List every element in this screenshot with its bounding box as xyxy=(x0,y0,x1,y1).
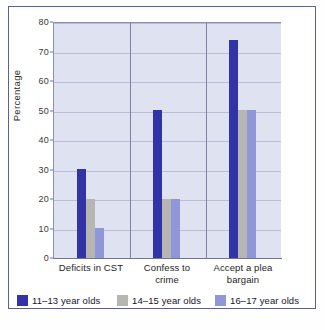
legend-color-swatch xyxy=(117,295,128,306)
chart-legend: 11–13 year olds14–15 year olds16–17 year… xyxy=(9,292,315,308)
y-axis-tick-labels: 01020304050607080 xyxy=(19,0,49,330)
bar xyxy=(229,40,238,258)
legend-label: 16–17 year olds xyxy=(230,295,299,306)
y-axis-tick-label: 70 xyxy=(21,47,49,57)
bar xyxy=(162,199,171,258)
group-separator xyxy=(206,23,207,258)
y-axis-tick-label: 50 xyxy=(21,106,49,116)
category-label-line: Accept a plea xyxy=(197,262,289,274)
y-axis-tick-label: 80 xyxy=(21,17,49,27)
bar xyxy=(171,199,180,258)
y-axis-tick-label: 60 xyxy=(21,76,49,86)
plot-area xyxy=(53,22,281,258)
bar xyxy=(95,228,104,258)
legend-color-swatch xyxy=(17,295,28,306)
legend-item[interactable]: 11–13 year olds xyxy=(17,295,100,306)
gridline xyxy=(54,82,281,83)
x-axis-category-label: Accept a pleabargain xyxy=(197,262,289,285)
legend-label: 11–13 year olds xyxy=(32,295,100,306)
chart-figure: Percentage 01020304050607080 Deficits in… xyxy=(0,0,325,330)
y-axis-tick-label: 30 xyxy=(21,165,49,175)
bar xyxy=(247,110,256,258)
legend-item[interactable]: 16–17 year olds xyxy=(215,295,299,306)
y-axis-tick-label: 10 xyxy=(21,224,49,234)
gridline xyxy=(54,23,281,24)
y-axis-tick-label: 40 xyxy=(21,135,49,145)
bar xyxy=(153,110,162,258)
bar xyxy=(86,199,95,258)
legend-color-swatch xyxy=(215,295,226,306)
bar xyxy=(238,110,247,258)
x-axis-line xyxy=(53,258,282,259)
legend-label: 14–15 year olds xyxy=(132,295,201,306)
bar xyxy=(77,169,86,258)
y-axis-tick-label: 20 xyxy=(21,194,49,204)
category-label-line: bargain xyxy=(197,274,289,286)
group-separator xyxy=(130,23,131,258)
legend-item[interactable]: 14–15 year olds xyxy=(117,295,201,306)
gridline xyxy=(54,53,281,54)
